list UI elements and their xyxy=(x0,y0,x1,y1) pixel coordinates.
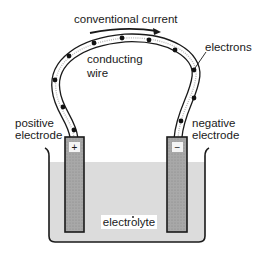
conducting-wire-label-line2: wire xyxy=(86,67,108,79)
positive-electrode-label-line2: electrode xyxy=(15,129,62,141)
electron-icon xyxy=(173,48,178,53)
plus-sign: + xyxy=(72,142,78,153)
positive-electrode-label-line1: positive xyxy=(15,117,54,129)
electron-icon xyxy=(72,128,77,133)
conducting-wire-label-line1: conducting xyxy=(87,53,143,65)
negative-electrode-label-line2: electrode xyxy=(192,129,239,141)
electrolyte-label: electrolyte xyxy=(103,216,155,228)
electron-icon xyxy=(192,68,197,73)
electron-icon xyxy=(147,38,152,43)
electrons-label: electrons xyxy=(205,41,252,53)
positive-electrode: + xyxy=(65,137,84,232)
electron-icon xyxy=(53,78,58,83)
electrochemical-cell-diagram: + − conventional current conducting wire… xyxy=(0,0,264,261)
minus-sign: − xyxy=(175,142,181,153)
negative-electrode: − xyxy=(167,137,187,232)
electron-icon xyxy=(61,105,66,110)
negative-electrode-label-line1: negative xyxy=(192,117,235,129)
electron-icon xyxy=(92,41,97,46)
conventional-current-label: conventional current xyxy=(74,13,178,25)
electron-icon xyxy=(120,36,125,41)
electron-icon xyxy=(179,119,184,124)
electron-icon xyxy=(192,96,197,101)
electron-icon xyxy=(67,54,72,59)
